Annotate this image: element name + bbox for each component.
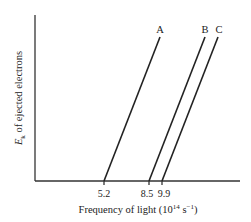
series-label-c: C xyxy=(215,24,222,35)
series-line-a xyxy=(104,37,160,181)
photoelectric-chart: A B C 5.2 8.5 9.9 Frequency of light (10… xyxy=(0,0,251,222)
series-label-b: B xyxy=(201,24,208,35)
x-tick-label-5-2: 5.2 xyxy=(98,188,111,199)
y-axis-label: Ek of ejected electrons xyxy=(13,51,27,146)
series-line-c xyxy=(162,37,218,181)
x-axis-label: Frequency of light (1014 s−1) xyxy=(79,203,198,216)
series-line-b xyxy=(149,37,205,181)
series-label-a: A xyxy=(156,24,164,35)
x-tick-label-9-9: 9.9 xyxy=(158,188,171,199)
x-tick-label-8-5: 8.5 xyxy=(141,188,154,199)
